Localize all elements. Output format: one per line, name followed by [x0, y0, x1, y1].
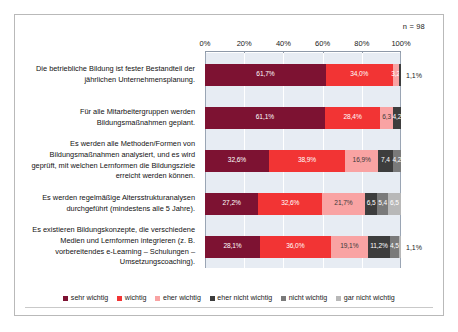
segment-value-label: 28,1% [223, 243, 241, 250]
legend-item[interactable]: sehr wichtig [63, 294, 108, 302]
bar-segment[interactable]: 6,5 [365, 193, 378, 215]
legend-item[interactable]: eher wichtig [155, 294, 200, 302]
x-axis-line [205, 51, 401, 52]
bar-segment[interactable]: 19,1% [331, 236, 368, 258]
stacked-bar[interactable]: 32,6%38,9%16,9%7,44,2 [205, 150, 401, 172]
bar-segment[interactable]: 11,2% [368, 236, 390, 258]
legend-item[interactable]: eher nicht wichtig [210, 294, 272, 302]
category-label: Für alle Mitarbeitergruppen werden Bildu… [23, 107, 195, 128]
segment-value-label: 6,5 [367, 200, 376, 207]
segment-value-label: 61,7% [256, 71, 274, 78]
legend-swatch-icon [336, 296, 341, 301]
legend-swatch-icon [63, 296, 68, 301]
segment-value-label: 6,5 [390, 200, 399, 207]
segment-value-label: 36,0% [286, 243, 304, 250]
stacked-bar[interactable]: 27,2%32,6%21,7%6,55,46,5 [205, 193, 401, 215]
bar-segment[interactable]: 4,2 [393, 150, 401, 172]
bar-segment[interactable]: 4,2 [393, 107, 401, 129]
x-tick-label: 80% [354, 39, 369, 48]
segment-value-label: 11,2% [370, 243, 388, 250]
bar-segment[interactable] [399, 236, 401, 258]
bar-segment[interactable]: 28,1% [205, 236, 260, 258]
bar-segment[interactable]: 32,6% [258, 193, 322, 215]
x-tick-label: 100% [391, 39, 410, 48]
legend-label: nicht wichtig [289, 294, 328, 302]
chart-figure: n = 98 0%20%40%60%80%100% 1,1%61,7%34,0%… [14, 14, 444, 316]
legend-divider [25, 307, 433, 308]
bar-segment[interactable]: 36,0% [260, 236, 331, 258]
stacked-bar[interactable]: 28,1%36,0%19,1%11,2%4,5 [205, 236, 401, 258]
bar-segment[interactable]: 32,6% [205, 150, 269, 172]
bar-segment[interactable]: 21,7% [322, 193, 365, 215]
x-tick-label: 60% [315, 39, 330, 48]
x-tick-label: 40% [276, 39, 291, 48]
segment-value-label: 38,9% [298, 157, 316, 164]
legend-label: eher nicht wichtig [217, 294, 272, 302]
legend-swatch-icon [210, 296, 215, 301]
segment-value-label: 4,2 [392, 114, 401, 121]
legend-label: sehr wichtig [71, 294, 108, 302]
category-label: Es werden alle Methoden/Formen von Bildu… [23, 139, 195, 181]
segment-value-label: 4,2 [392, 157, 401, 164]
category-label: Die betriebliche Bildung ist fester Best… [23, 64, 195, 85]
segment-value-label: 27,2% [223, 200, 241, 207]
segment-value-label: 7,4 [381, 157, 390, 164]
segment-value-label: 61,1% [256, 114, 274, 121]
bar-segment[interactable]: 34,0% [326, 64, 393, 86]
segment-value-label: 32,6% [228, 157, 246, 164]
bar-segment[interactable]: 16,9% [345, 150, 378, 172]
bar-segment[interactable]: 27,2% [205, 193, 258, 215]
legend-swatch-icon [117, 296, 122, 301]
bar-segment[interactable]: 61,1% [205, 107, 325, 129]
stacked-bar[interactable]: 61,1%28,4%6,34,2 [205, 107, 401, 129]
segment-value-label: 6,3 [382, 114, 391, 121]
segment-value-label: 21,7% [334, 200, 352, 207]
legend-item[interactable]: wichtig [117, 294, 146, 302]
bar-segment[interactable]: 7,4 [378, 150, 393, 172]
sample-size-annotation: n = 98 [403, 22, 425, 31]
segment-value-label: 5,4 [378, 200, 387, 207]
bar-segment[interactable]: 4,5 [390, 236, 399, 258]
bar-segment[interactable]: 6,5 [388, 193, 401, 215]
bar-segment[interactable]: 38,9% [269, 150, 345, 172]
category-label: Es existieren Bildungskonzepte, die vers… [23, 225, 195, 267]
x-tick-label: 0% [200, 39, 211, 48]
legend-item[interactable]: gar nicht wichtig [336, 294, 394, 302]
stacked-bar[interactable]: 61,7%34,0%3,2 [205, 64, 401, 86]
segment-value-label: 19,1% [340, 243, 358, 250]
chart-legend: sehr wichtigwichtigeher wichtigeher nich… [15, 294, 443, 302]
legend-label: eher wichtig [163, 294, 201, 302]
legend-label: wichtig [125, 294, 147, 302]
bar-segment[interactable]: 28,4% [325, 107, 381, 129]
x-tick-label: 20% [237, 39, 252, 48]
legend-label: gar nicht wichtig [344, 294, 395, 302]
segment-value-label: 32,6% [281, 200, 299, 207]
bar-segment[interactable]: 6,3 [380, 107, 392, 129]
legend-swatch-icon [155, 296, 160, 301]
category-label: Es werden regelmäßige Altersstrukturanal… [23, 193, 195, 214]
segment-value-label: 28,4% [343, 114, 361, 121]
segment-value-label: 34,0% [350, 71, 368, 78]
legend-swatch-icon [281, 296, 286, 301]
segment-value-label: 16,9% [353, 157, 371, 164]
bar-segment[interactable]: 61,7% [205, 64, 326, 86]
bar-segment[interactable] [399, 64, 401, 86]
segment-value-label: 4,5 [390, 243, 399, 250]
bar-segment[interactable]: 5,4 [377, 193, 388, 215]
legend-item[interactable]: nicht wichtig [281, 294, 327, 302]
